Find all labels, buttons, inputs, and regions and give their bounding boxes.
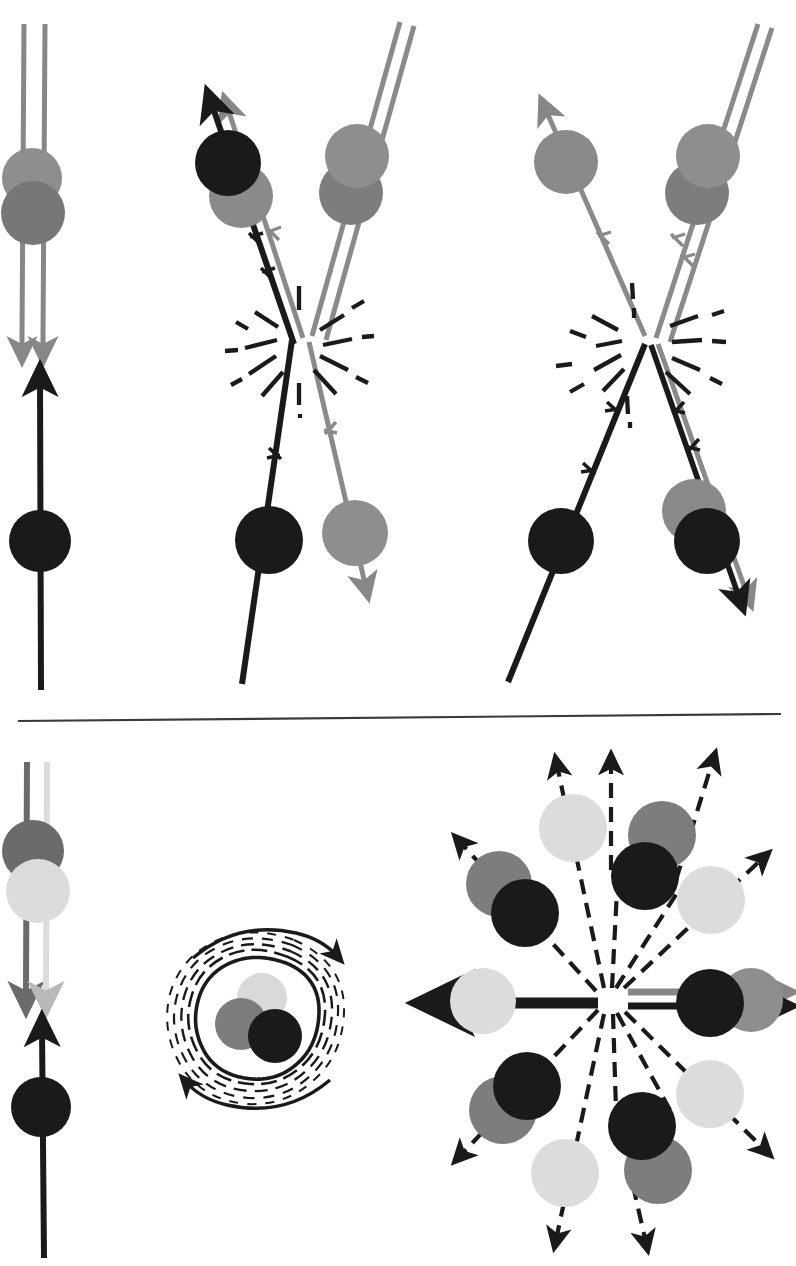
single-line-target-up	[42, 1028, 44, 1258]
circle-light-gray	[531, 1139, 599, 1207]
circle-black	[611, 842, 679, 910]
circle-black-right	[676, 969, 744, 1037]
circle-black	[9, 510, 71, 572]
circle-black-lower-left	[528, 508, 594, 574]
circle-black	[248, 1009, 302, 1063]
circle-black	[493, 1052, 561, 1120]
diagram-root	[0, 0, 796, 1266]
circle-light-gray	[677, 866, 745, 934]
circle-light-gray	[539, 794, 607, 862]
figure-canvas	[0, 0, 796, 1266]
circle-black	[608, 1092, 676, 1160]
circle-black	[11, 1077, 71, 1137]
circle-gray-lower-right	[322, 500, 388, 566]
circle-black-lower-left	[235, 506, 303, 574]
circle-gray-upper-right	[325, 124, 389, 188]
circle-gray-upper-left	[534, 130, 598, 194]
circle-gray-dark	[1, 181, 65, 245]
circle-black	[491, 879, 559, 947]
circle-light-gray	[6, 859, 70, 923]
circle-light-gray-left	[450, 968, 516, 1034]
circle-black-upper-left	[195, 130, 261, 196]
circle-light-gray	[676, 1060, 744, 1128]
circle-black-lower-right	[674, 508, 740, 574]
circle-gray-upper-right	[676, 124, 740, 188]
